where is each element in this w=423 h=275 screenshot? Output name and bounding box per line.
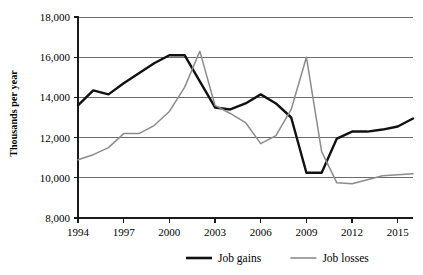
legend-label-job-gains: Job gains xyxy=(218,252,262,265)
series-line-job-gains xyxy=(78,55,413,173)
chart-legend: Job gainsJob losses xyxy=(186,252,369,265)
y-axis-tick-label: 14,000 xyxy=(40,91,71,103)
x-axis-tick-label: 2003 xyxy=(204,226,227,238)
x-axis-tick-labels: 19941997200020032006200920122015 xyxy=(67,226,409,238)
legend-label-job-losses: Job losses xyxy=(322,252,369,264)
x-axis-tick-label: 2006 xyxy=(250,226,273,238)
x-axis-tick-label: 2009 xyxy=(295,226,318,238)
x-axis-tick-label: 2015 xyxy=(387,226,410,238)
series-line-job-losses xyxy=(78,51,413,184)
job-gains-losses-line-chart: Thousands per year 18,00016,00014,00012,… xyxy=(0,0,423,275)
x-axis-tick-label: 2012 xyxy=(341,226,363,238)
data-series xyxy=(78,51,413,184)
y-axis-tick-label: 16,000 xyxy=(40,51,71,63)
x-axis-tick-label: 1997 xyxy=(113,226,136,238)
y-axis-tick-label: 12,000 xyxy=(40,132,71,144)
y-axis-tick-labels: 18,00016,00014,00012,00010,0008,000 xyxy=(40,11,71,224)
y-axis-tick-label: 10,000 xyxy=(40,172,71,184)
gridlines xyxy=(78,17,413,218)
x-axis-tick-label: 2000 xyxy=(158,226,181,238)
x-axis-tick-label: 1994 xyxy=(67,226,90,238)
axis-lines xyxy=(74,16,413,223)
y-axis-tick-label: 8,000 xyxy=(45,212,70,224)
y-axis-tick-label: 18,000 xyxy=(40,11,71,23)
chart-plot-area: 18,00016,00014,00012,00010,0008,000 1994… xyxy=(0,0,423,275)
